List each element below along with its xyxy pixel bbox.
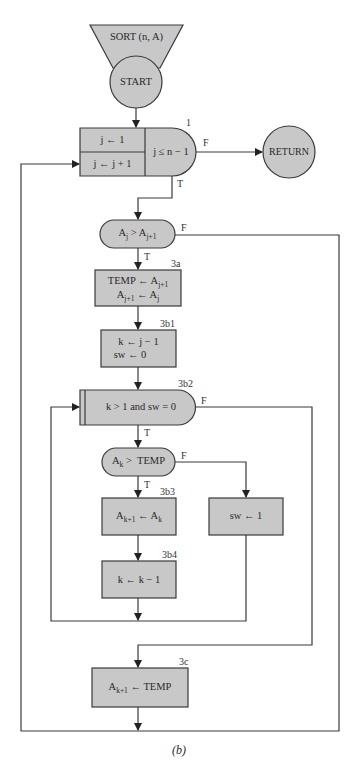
entry-label: SORT (n, A) [90, 31, 183, 42]
loop-3b2-false-label: F [201, 396, 207, 406]
step-3b4-id: 3b4 [162, 550, 177, 560]
step-3b4-text: k ← k − 1 [102, 574, 176, 585]
decision-aj-text: Aj > Aj+1 [100, 227, 175, 241]
decision-aj-true-label: T [144, 252, 150, 262]
step-3c-id: 3c [179, 657, 188, 667]
step-3b3-text: Ak+1 ← Ak [102, 510, 176, 524]
loop-3b2-id: 3b2 [178, 379, 193, 389]
loop-3b2-true-label: T [144, 428, 150, 438]
loop-3b2-condition: k > 1 and sw = 0 [86, 401, 196, 412]
step-3a-line2: Aj+1 ← Aj [95, 289, 181, 303]
step-sw-text: sw ← 1 [209, 510, 283, 521]
step-3b1-line1: k ← j − 1 [101, 336, 176, 347]
loop-1-increment: j ← j + 1 [80, 158, 145, 169]
step-3b3-id: 3b3 [160, 487, 175, 497]
decision-aj-false-label: F [181, 223, 187, 233]
step-3a-id: 3a [171, 259, 180, 269]
loop-1-condition: j ≤ n − 1 [146, 146, 196, 157]
step-3a-line1: TEMP ← Aj+1 [95, 275, 181, 289]
step-3c-text: Ak+1 ← TEMP [92, 681, 188, 695]
decision-ak-false-label: F [181, 451, 187, 461]
figure-caption: (b) [172, 743, 186, 758]
step-3b1-line2: sw ← 0 [95, 349, 165, 360]
loop-1-init: j ← 1 [80, 134, 145, 145]
decision-ak-true-label: T [144, 480, 150, 490]
step-3b1-id: 3b1 [160, 319, 175, 329]
loop-1-id: 1 [186, 118, 191, 128]
loop-1-false-label: F [203, 138, 209, 148]
return-label: RETURN [263, 146, 315, 157]
loop-1-true-label: T [177, 179, 183, 189]
start-label: START [110, 76, 162, 87]
decision-ak-text: Ak > TEMP [102, 455, 175, 469]
